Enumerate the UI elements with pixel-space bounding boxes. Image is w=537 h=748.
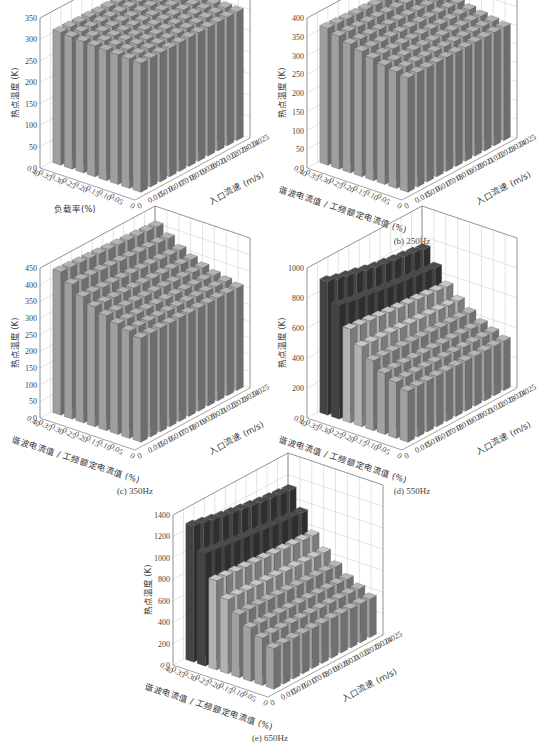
z-axis-label: 热点温度 (K) (10, 68, 20, 119)
y-axis-label: 入口流速 (m/s) (340, 666, 398, 703)
z-tick: 200 (25, 347, 37, 356)
x-tick: 0.05 (108, 442, 125, 457)
z-tick: 300 (292, 52, 304, 61)
x-tick: 0.05 (375, 442, 392, 457)
z-tick: 350 (25, 297, 37, 306)
x-tick: 0.05 (375, 192, 392, 207)
x-axis-label: 谐波电流值 / 工频额定电流值 (%) (11, 434, 141, 485)
chart-d: 020040060080010000.400.350.300.250.200.1… (267, 250, 537, 485)
z-tick: 150 (292, 108, 304, 117)
y-axis-label: 入口流速 (m/s) (207, 169, 265, 206)
bars (53, 221, 244, 443)
z-tick: 1000 (288, 264, 304, 273)
z-tick: 400 (292, 14, 304, 23)
y-tick: 0 (403, 201, 411, 211)
chart-e: 02004006008001000120014000.400.350.300.2… (133, 497, 408, 732)
z-tick: 250 (292, 70, 304, 79)
panel-c: 0501001502002503003504004500.400.350.300… (0, 250, 270, 485)
z-tick: 350 (25, 14, 37, 23)
z-tick: 100 (25, 381, 37, 390)
caption-b: (b) 250Hz (372, 236, 452, 246)
z-tick: 300 (25, 35, 37, 44)
caption-e: (e) 650Hz (230, 733, 310, 743)
z-tick: 200 (292, 89, 304, 98)
y-axis-label: 入口流速 (m/s) (474, 169, 532, 206)
z-tick: 150 (25, 364, 37, 373)
x-tick: 0.05 (241, 689, 258, 704)
y-tick: 0.025 (518, 382, 537, 398)
y-axis-label: 入口流速 (m/s) (474, 419, 532, 456)
z-tick: 250 (25, 57, 37, 66)
z-axis-label: 热点温度 (K) (143, 565, 153, 616)
caption-c: (c) 350Hz (95, 486, 175, 496)
z-tick: 200 (158, 640, 170, 649)
panel-d: 020040060080010000.400.350.300.250.200.1… (267, 250, 537, 485)
panel-e: 02004006008001000120014000.400.350.300.2… (133, 497, 408, 732)
z-tick: 350 (292, 33, 304, 42)
chart-a: 0501001502002503003500.400.350.300.250.2… (0, 0, 270, 235)
z-tick: 200 (25, 78, 37, 87)
y-tick: 0.025 (384, 629, 404, 645)
z-tick: 400 (25, 281, 37, 290)
z-tick: 100 (25, 121, 37, 130)
z-tick: 100 (292, 127, 304, 136)
z-tick: 1200 (154, 532, 170, 541)
z-axis-label: 热点温度 (K) (10, 318, 20, 369)
z-axis-label: 热点温度 (K) (277, 318, 287, 369)
x-tick: 0.05 (108, 192, 125, 207)
z-tick: 50 (29, 143, 37, 152)
y-tick: 0 (136, 201, 144, 211)
z-tick: 600 (292, 324, 304, 333)
z-tick: 150 (25, 100, 37, 109)
y-tick: 0 (403, 451, 411, 461)
z-tick: 1400 (154, 511, 170, 520)
z-tick: 400 (292, 354, 304, 363)
panel-b: 0501001502002503003504000.400.350.300.25… (267, 0, 537, 235)
chart-b: 0501001502002503003504000.400.350.300.25… (267, 0, 537, 235)
z-tick: 200 (292, 384, 304, 393)
z-tick: 400 (158, 618, 170, 627)
chart-c: 0501001502002503003504004500.400.350.300… (0, 250, 270, 485)
y-axis-label: 入口流速 (m/s) (207, 419, 265, 456)
z-axis-label: 热点温度 (K) (277, 68, 287, 119)
y-tick: 0.025 (518, 132, 537, 148)
z-tick: 800 (292, 294, 304, 303)
z-tick: 600 (158, 597, 170, 606)
z-tick: 450 (25, 264, 37, 273)
x-axis-label: 谐波电流值 / 工频额定电流值 (%) (144, 681, 274, 732)
z-tick: 250 (25, 331, 37, 340)
x-axis-label: 谐波电流值 / 工频额定电流值 (%) (278, 184, 408, 235)
y-tick: 0 (269, 698, 277, 708)
z-tick: 50 (29, 397, 37, 406)
caption-d: (d) 550Hz (372, 486, 452, 496)
y-tick: 0 (136, 451, 144, 461)
x-axis-label: 负载率(%) (54, 204, 96, 214)
z-tick: 800 (158, 575, 170, 584)
z-tick: 1000 (154, 554, 170, 563)
panel-a: 0501001502002503003500.400.350.300.250.2… (0, 0, 270, 235)
z-tick: 300 (25, 314, 37, 323)
z-tick: 50 (296, 145, 304, 154)
